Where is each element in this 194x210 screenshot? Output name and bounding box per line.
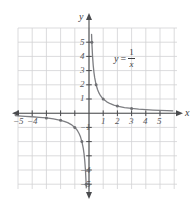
x-tick-label-neg4: −4 (27, 117, 38, 126)
x-tick-label-1: 1 (101, 117, 106, 126)
grid-lines-horizontal (18, 28, 177, 184)
y-axis-arrow-up (86, 13, 92, 20)
fraction-numerator: 1 (128, 48, 135, 57)
x-tick-label-4: 4 (143, 117, 148, 126)
y-tick-label-neg1: −1 (80, 123, 91, 132)
y-tick-label-2: 2 (80, 80, 85, 89)
x-tick-label-3: 3 (129, 117, 134, 126)
x-axis-arrow-right (176, 110, 183, 116)
fraction-denominator: x (129, 60, 135, 69)
equation-relation: = (120, 54, 126, 64)
equation-fraction: 1 x (128, 48, 135, 70)
x-axis-name: x (185, 108, 189, 118)
y-tick-label-5: 5 (80, 38, 85, 47)
plot-canvas (0, 0, 194, 210)
y-axis-arrow-down (86, 192, 92, 199)
equation-annotation: y = 1 x (114, 48, 135, 70)
equation-lhs: y (114, 54, 118, 64)
y-tick-label-neg5: −5 (80, 180, 91, 189)
graph-figure: y x 5 4 3 2 1 −1 −4 −5 −5 −4 1 2 3 4 5 y… (0, 0, 194, 210)
y-tick-label-1: 1 (80, 94, 85, 103)
x-tick-label-5: 5 (157, 117, 162, 126)
y-tick-label-3: 3 (80, 66, 85, 75)
y-axis-name: y (79, 12, 83, 22)
x-tick-label-2: 2 (115, 117, 120, 126)
x-tick-label-neg5: −5 (13, 117, 24, 126)
y-tick-label-4: 4 (80, 52, 85, 61)
grid-lines-vertical (18, 28, 174, 189)
y-tick-label-neg4: −4 (80, 166, 91, 175)
